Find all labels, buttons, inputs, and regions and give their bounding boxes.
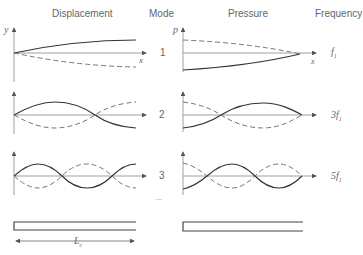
mode-2-pressure-plot [183, 92, 316, 132]
mode-3-displacement-plot [14, 152, 146, 195]
mode-2-displacement-plot [14, 92, 146, 134]
closed-tube-displacement [14, 222, 136, 230]
mode-3-pressure-plot [183, 152, 316, 195]
mode-1-pressure-plot [183, 28, 316, 72]
closed-tube-pressure [183, 222, 303, 231]
standing-wave-diagram [0, 0, 363, 255]
mode-1-displacement-plot [14, 28, 146, 82]
